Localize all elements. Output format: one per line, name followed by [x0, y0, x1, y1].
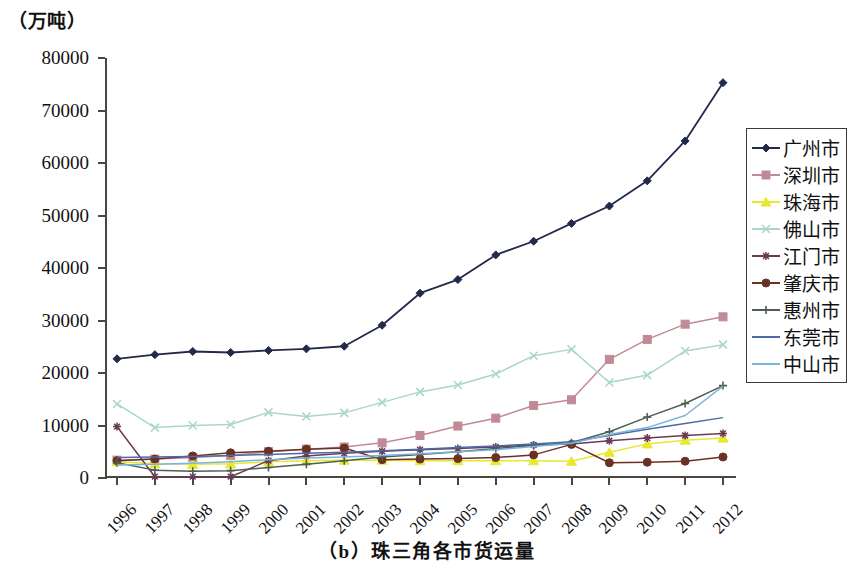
x-axis-tick	[116, 478, 118, 485]
legend-label: 惠州市	[783, 296, 840, 323]
figure-panel: （万吨） 01000020000300004000050000600007000…	[0, 0, 853, 571]
y-axis-tick: 50000	[98, 215, 105, 217]
legend-marker-triangle-icon	[751, 194, 781, 210]
y-axis-tick-label: 70000	[42, 100, 90, 122]
legend-label: 深圳市	[783, 161, 840, 188]
x-axis-tick-label: 2011	[672, 500, 710, 538]
legend-item-肇庆市[interactable]: 肇庆市	[751, 269, 840, 296]
y-axis-tick-label: 40000	[42, 257, 90, 279]
x-axis-tick-label: 2004	[406, 500, 444, 538]
legend-item-惠州市[interactable]: 惠州市	[751, 296, 840, 323]
y-axis-tick-label: 0	[80, 467, 90, 489]
y-axis-tick-label: 20000	[42, 362, 90, 384]
x-axis-tick-label: 2005	[444, 500, 482, 538]
legend-marker-plus-icon	[751, 302, 781, 318]
series-3	[113, 341, 727, 432]
x-axis-tick-label: 2001	[292, 500, 330, 538]
x-axis-tick	[533, 478, 535, 485]
y-axis-tick: 0	[98, 477, 105, 479]
series-0	[113, 79, 727, 363]
x-axis-tick-label: 2006	[482, 500, 520, 538]
legend-marker-diamond-icon	[751, 140, 781, 156]
x-axis-tick	[268, 478, 270, 485]
legend-marker-line-icon	[751, 356, 781, 372]
legend-item-深圳市[interactable]: 深圳市	[751, 161, 840, 188]
chart-legend: 广州市深圳市珠海市佛山市江门市肇庆市惠州市东莞市中山市	[746, 128, 847, 383]
y-axis-tick: 20000	[98, 372, 105, 374]
x-axis-tick-label: 1997	[141, 500, 179, 538]
y-axis-tick: 80000	[98, 57, 105, 59]
y-axis-tick-label: 10000	[42, 415, 90, 437]
legend-marker-x-icon	[751, 221, 781, 237]
legend-item-江门市[interactable]: 江门市	[751, 242, 840, 269]
legend-label: 江门市	[783, 242, 840, 269]
series-1	[113, 313, 727, 464]
y-axis-tick: 40000	[98, 267, 105, 269]
x-axis-tick	[495, 478, 497, 485]
legend-marker-line-icon	[751, 329, 781, 345]
y-axis-unit-label: （万吨）	[8, 6, 86, 33]
legend-item-佛山市[interactable]: 佛山市	[751, 215, 840, 242]
y-axis-tick-label: 60000	[42, 152, 90, 174]
legend-item-东莞市[interactable]: 东莞市	[751, 323, 840, 350]
legend-marker-asterisk-icon	[751, 248, 781, 264]
y-axis-tick-label: 80000	[42, 47, 90, 69]
y-axis-tick: 60000	[98, 162, 105, 164]
x-axis-tick	[381, 478, 383, 485]
legend-label: 广州市	[783, 134, 840, 161]
x-axis-tick	[305, 478, 307, 485]
x-axis-tick-label: 2007	[520, 500, 558, 538]
legend-item-中山市[interactable]: 中山市	[751, 350, 840, 377]
x-axis-tick	[457, 478, 459, 485]
x-axis-tick-label: 2000	[254, 500, 292, 538]
figure-caption: （b）珠三角各市货运量	[0, 536, 853, 563]
legend-label: 东莞市	[783, 323, 840, 350]
y-axis-tick-label: 30000	[42, 310, 90, 332]
y-axis-tick: 10000	[98, 425, 105, 427]
x-axis-tick-label: 2012	[709, 500, 747, 538]
x-axis-tick-label: 2010	[633, 500, 671, 538]
x-axis-tick-label: 2009	[595, 500, 633, 538]
y-axis-tick: 70000	[98, 110, 105, 112]
legend-item-珠海市[interactable]: 珠海市	[751, 188, 840, 215]
x-axis-tick	[646, 478, 648, 485]
y-axis-tick-label: 50000	[42, 205, 90, 227]
x-axis-tick-label: 1999	[217, 500, 255, 538]
legend-label: 珠海市	[783, 188, 840, 215]
legend-marker-circle-icon	[751, 275, 781, 291]
x-axis-tick	[608, 478, 610, 485]
x-axis-tick	[684, 478, 686, 485]
y-axis-tick: 30000	[98, 320, 105, 322]
legend-label: 中山市	[783, 350, 840, 377]
x-axis-tick	[343, 478, 345, 485]
x-axis-tick-label: 2002	[330, 500, 368, 538]
legend-marker-square-icon	[751, 167, 781, 183]
x-axis-tick-label: 1996	[103, 500, 141, 538]
legend-item-广州市[interactable]: 广州市	[751, 134, 840, 161]
plot-area: 0100002000030000400005000060000700008000…	[105, 58, 735, 478]
x-axis-tick	[722, 478, 724, 485]
x-axis-tick-label: 1998	[179, 500, 217, 538]
x-axis-tick	[571, 478, 573, 485]
x-axis-tick	[419, 478, 421, 485]
x-axis-tick-label: 2008	[557, 500, 595, 538]
legend-label: 肇庆市	[783, 269, 840, 296]
series-layer	[105, 58, 735, 478]
legend-label: 佛山市	[783, 215, 840, 242]
x-axis-tick-label: 2003	[368, 500, 406, 538]
